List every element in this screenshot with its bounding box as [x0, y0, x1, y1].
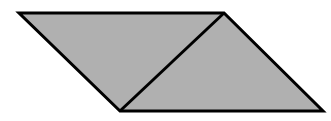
parallelogram-svg: [0, 0, 331, 121]
figure-canvas: [0, 0, 331, 121]
